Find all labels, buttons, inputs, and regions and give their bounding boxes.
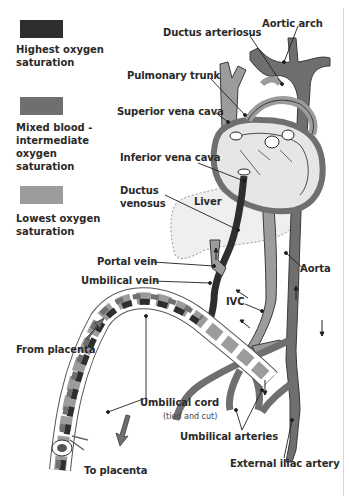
label-umbilical-vein: Umbilical vein — [81, 275, 159, 287]
label-inferior-vena-cava: Inferior vena cava — [120, 152, 220, 164]
to-placenta-arrow — [116, 415, 130, 446]
label-aorta: Aorta — [300, 263, 331, 275]
label-umbilical-arteries: Umbilical arteries — [180, 431, 278, 443]
label-from-placenta: From placenta — [16, 344, 95, 356]
label-ductus-arteriosus: Ductus arteriosus — [163, 27, 261, 39]
label-ivc: IVC — [226, 296, 245, 308]
label-umbilical-cord-note: (tied and cut) — [163, 412, 217, 422]
label-pulmonary-trunk: Pulmonary trunk — [127, 70, 220, 82]
label-ductus-venosus-1: Ductus — [120, 185, 159, 197]
label-portal-vein: Portal vein — [97, 256, 157, 268]
label-superior-vena-cava: Superior vena cava — [117, 106, 224, 118]
label-external-iliac-artery: External iliac artery — [230, 458, 340, 470]
label-aortic-arch: Aortic arch — [262, 18, 323, 30]
label-liver: Liver — [194, 196, 222, 208]
label-ductus-venosus-2: venosus — [120, 198, 166, 210]
label-umbilical-cord: Umbilical cord — [140, 397, 219, 409]
fetal-circulation-diagram: Highest oxygen saturation Mixed blood - … — [0, 0, 349, 496]
label-to-placenta: To placenta — [84, 465, 147, 477]
